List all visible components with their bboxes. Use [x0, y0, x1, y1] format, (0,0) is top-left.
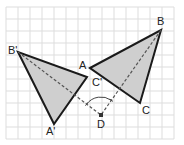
label-b: B — [157, 15, 164, 27]
points — [99, 113, 103, 117]
label-a: A — [79, 59, 87, 71]
rotation-diagram: ABCA'B'C'D — [0, 0, 184, 145]
triangle-a-primeb-primec-prime — [18, 52, 87, 124]
label-c-prime: C' — [92, 76, 102, 88]
center-point-d — [99, 113, 103, 117]
label-c: C — [142, 104, 150, 116]
label-b-prime: B' — [8, 44, 17, 56]
label-a-prime: A' — [46, 125, 55, 137]
label-d: D — [97, 118, 105, 130]
